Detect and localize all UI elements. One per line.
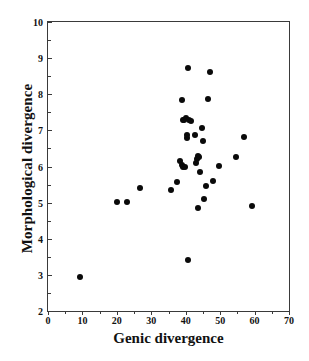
data-point — [185, 65, 191, 71]
x-tick-label: 70 — [284, 315, 294, 326]
y-tick-label: 5 — [38, 197, 43, 208]
data-point — [179, 97, 185, 103]
data-point — [195, 205, 201, 211]
y-tick-label: 6 — [38, 161, 43, 172]
x-tick-label: 10 — [77, 315, 87, 326]
y-tick-major — [48, 167, 52, 168]
data-point — [182, 164, 188, 170]
data-point — [196, 154, 202, 160]
y-tick-label: 10 — [33, 17, 43, 28]
data-point — [168, 187, 174, 193]
y-tick-major — [48, 203, 52, 204]
y-tick-label: 8 — [38, 89, 43, 100]
data-point — [184, 132, 190, 138]
y-tick-label: 9 — [38, 53, 43, 64]
y-tick-major — [48, 239, 52, 240]
y-tick-minor — [48, 40, 51, 41]
data-point — [216, 163, 222, 169]
y-tick-major — [48, 275, 52, 276]
y-tick-minor — [48, 293, 51, 294]
data-point — [114, 199, 120, 205]
y-tick-minor — [48, 112, 51, 113]
data-point — [137, 185, 143, 191]
x-axis-title: Genic divergence — [47, 330, 290, 347]
x-tick-minor — [100, 311, 101, 314]
y-tick-major — [48, 94, 52, 95]
x-tick-label: 60 — [250, 315, 260, 326]
data-point — [197, 169, 203, 175]
x-tick-label: 40 — [181, 315, 191, 326]
y-axis-title: Morphological divergence — [19, 59, 36, 279]
x-tick-minor — [203, 311, 204, 314]
x-tick-minor — [134, 311, 135, 314]
data-point — [199, 125, 205, 131]
data-point — [77, 274, 83, 280]
y-tick-minor — [48, 257, 51, 258]
data-point — [210, 178, 216, 184]
x-tick-label: 50 — [215, 315, 225, 326]
y-tick-major — [48, 130, 52, 131]
data-point — [201, 196, 207, 202]
x-tick-minor — [169, 311, 170, 314]
data-point — [188, 118, 194, 124]
data-point — [192, 132, 198, 138]
x-tick-label: 0 — [46, 315, 51, 326]
y-tick-minor — [48, 148, 51, 149]
y-tick-label: 4 — [38, 233, 43, 244]
y-tick-minor — [48, 185, 51, 186]
x-tick-minor — [65, 311, 66, 314]
y-tick-label: 2 — [38, 306, 43, 317]
data-point — [241, 134, 247, 140]
y-tick-major — [48, 22, 52, 23]
x-tick-label: 20 — [112, 315, 122, 326]
data-point — [200, 138, 206, 144]
y-tick-major — [48, 58, 52, 59]
data-point — [205, 96, 211, 102]
data-point — [185, 257, 191, 263]
x-tick-label: 30 — [146, 315, 156, 326]
data-point — [249, 203, 255, 209]
data-point — [203, 183, 209, 189]
data-point — [174, 179, 180, 185]
y-tick-label: 7 — [38, 125, 43, 136]
x-tick-minor — [272, 311, 273, 314]
data-point — [207, 69, 213, 75]
scatter-plot-figure: Morphological divergence 2345678910 0102… — [0, 0, 309, 361]
plot-area: 2345678910 010203040506070 — [47, 21, 290, 312]
y-tick-label: 3 — [38, 269, 43, 280]
y-tick-minor — [48, 221, 51, 222]
x-tick-minor — [237, 311, 238, 314]
data-point — [233, 154, 239, 160]
y-tick-minor — [48, 76, 51, 77]
data-point — [124, 199, 130, 205]
